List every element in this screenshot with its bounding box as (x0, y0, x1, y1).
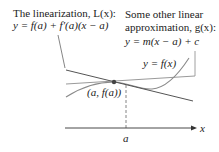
a-tick-label: a (123, 132, 129, 144)
point-label: (a, f(a)) (87, 86, 121, 98)
other-approx-title-line2: approximation, g(x): (125, 21, 216, 33)
x-axis-arrow-icon (191, 126, 197, 131)
other-linear-approximation-line (66, 76, 195, 84)
linearization-equation: y = f(a) + f′(a)(x − a) (13, 19, 109, 31)
linearization-title: The linearization, L(x): (13, 7, 116, 19)
linearization-leader-line (58, 35, 65, 68)
other-approx-equation: y = m(x − a) + c (125, 35, 199, 47)
linearization-diagram: The linearization, L(x): y = f(a) + f′(a… (0, 0, 219, 152)
curve-label: y = f(x) (143, 57, 176, 69)
tangency-point (112, 80, 116, 84)
tangent-line (66, 70, 193, 101)
other-approx-title-line1: Some other linear (125, 8, 203, 20)
x-axis-label: x (200, 122, 205, 134)
